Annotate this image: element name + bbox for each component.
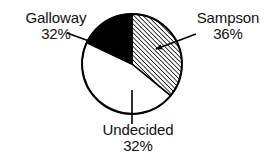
slice-label-sampson-value: 36% bbox=[186, 26, 270, 42]
pie-chart-figure: Galloway 32% Sampson 36% Undecided 32% bbox=[0, 0, 271, 161]
slice-label-undecided-name: Undecided bbox=[88, 122, 188, 138]
slice-label-undecided: Undecided 32% bbox=[88, 122, 188, 154]
slice-label-sampson: Sampson 36% bbox=[186, 10, 270, 42]
slice-label-undecided-value: 32% bbox=[88, 138, 188, 154]
slice-label-galloway: Galloway 32% bbox=[8, 10, 104, 42]
slice-label-galloway-name: Galloway bbox=[8, 10, 104, 26]
slice-label-sampson-name: Sampson bbox=[186, 10, 270, 26]
slice-label-galloway-value: 32% bbox=[8, 26, 104, 42]
